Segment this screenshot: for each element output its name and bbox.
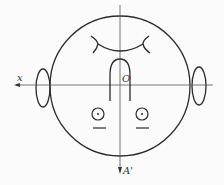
brow-left-flick (91, 36, 98, 53)
origin-label: O (122, 73, 130, 84)
vertical-axis-label: A' (122, 165, 133, 176)
left-ear (36, 69, 50, 107)
vertical-axis-arrow-icon (118, 167, 122, 174)
right-ear (192, 67, 206, 105)
x-axis-arrow-icon (14, 83, 20, 87)
right-eye-dot (141, 113, 143, 115)
head-diagram: x A' O (0, 0, 224, 185)
x-axis-label: x (17, 72, 23, 83)
diagram-canvas: x A' O (0, 0, 224, 185)
brow-arc (98, 44, 143, 51)
left-eye-dot (97, 113, 99, 115)
brow-right-flick (143, 36, 150, 53)
